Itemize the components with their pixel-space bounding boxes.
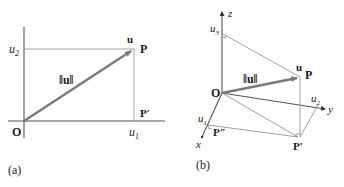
- vector-diagram: u2 u P ‖u‖ P′ O u1 (a) z u3 ‖u‖ u P O u2: [0, 0, 344, 187]
- vector-u-arrow: [222, 78, 297, 93]
- norm-label: ‖u‖: [243, 72, 258, 86]
- x-axis-label: x: [195, 138, 201, 150]
- y-axis-label: y: [327, 103, 333, 115]
- norm-label: ‖u‖: [59, 73, 74, 87]
- u1-label: u1: [129, 125, 139, 141]
- vector-u-label: u: [127, 33, 133, 45]
- u2-label: u2: [9, 42, 19, 58]
- u1-label: u1: [198, 112, 207, 127]
- origin-to-p-prime-line: [222, 93, 298, 137]
- u2-label: u2: [311, 92, 321, 107]
- x-axis-end: [201, 136, 203, 138]
- vector-u-label: u: [296, 61, 302, 73]
- u3-label: u3: [210, 22, 220, 37]
- caption-b: (b): [196, 158, 210, 172]
- point-p-prime-label: P′: [140, 107, 150, 119]
- point-p-label: P: [140, 42, 147, 56]
- origin-label: O: [211, 86, 220, 100]
- z-axis-label: z: [227, 7, 233, 19]
- vector-u-arrow: [24, 51, 131, 121]
- panel-b: z u3 ‖u‖ u P O u2 y u1 P″ x P′ (b): [195, 7, 333, 172]
- panel-a: u2 u P ‖u‖ P′ O u1 (a): [8, 27, 165, 177]
- u3-guide-line: [223, 34, 300, 77]
- u2-guide-line: [300, 105, 318, 137]
- point-p-double-prime-label: P″: [213, 126, 226, 138]
- point-p-label: P: [305, 68, 312, 82]
- caption-a: (a): [8, 163, 21, 177]
- origin-label: O: [12, 125, 21, 139]
- point-p-prime-label: P′: [293, 140, 303, 152]
- y-axis: [222, 93, 325, 109]
